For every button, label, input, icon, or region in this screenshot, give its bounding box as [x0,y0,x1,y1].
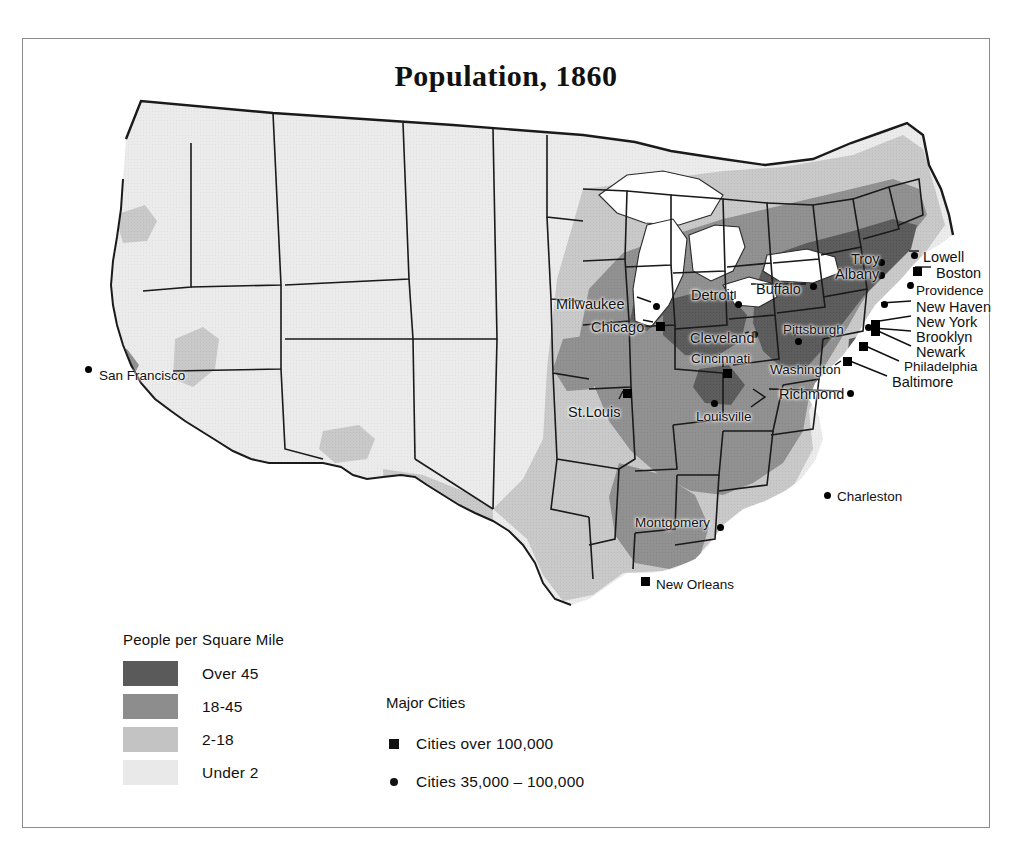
city-label-cincinnati: Cincinnati [691,352,750,366]
dot-marker-icon [386,778,416,786]
cities-legend-label: Cities over 100,000 [416,735,553,753]
city-label-albany: Albany [835,267,879,282]
cities-legend-label: Cities 35,000 – 100,000 [416,773,584,791]
density-legend-label: 18-45 [202,698,243,716]
city-marker-baltimore [843,357,852,366]
density-swatch [123,727,178,752]
density-swatch [123,760,178,785]
city-marker-providence [907,282,914,289]
city-marker-charleston [824,492,831,499]
city-label-montgomery: Montgomery [635,516,710,530]
city-label-richmond: Richmond [779,387,844,402]
city-label-lowell: Lowell [923,250,964,265]
city-label-new-york: New York [916,315,977,330]
density-legend-label: Under 2 [202,764,259,782]
city-label-pittsburgh: Pittsburgh [783,323,844,337]
city-label-chicago: Chicago [591,320,644,335]
cities-legend-row: Cities over 100,000 [386,725,584,763]
city-label-philadelphia: Philadelphia [904,360,978,374]
page-header-fragment [690,0,990,8]
city-label-buffalo: Buffalo [756,282,801,297]
city-marker-milwaukee [653,303,660,310]
city-marker-newark [865,324,872,331]
city-marker-pittsburgh [795,338,802,345]
density-swatch [123,694,178,719]
city-label-new-haven: New Haven [916,300,991,315]
city-marker-philadelphia [859,342,868,351]
city-label-washington: Washington [770,363,841,377]
city-marker-brooklyn [871,327,880,336]
density-legend: People per Square Mile Over 4518-452-18U… [123,631,284,789]
city-marker-chicago [656,322,665,331]
city-marker-richmond [847,390,854,397]
city-marker-detroit [735,301,742,308]
square-marker-icon [386,739,416,749]
city-marker-cincinnati [723,369,732,378]
map-frame: Population, 1860 [22,38,990,828]
city-marker-new-haven [881,301,888,308]
city-marker-st-louis [623,389,632,398]
density-legend-row: 18-45 [123,690,284,723]
city-label-newark: Newark [916,345,965,360]
density-legend-row: Over 45 [123,657,284,690]
cities-legend: Major Cities Cities over 100,000Cities 3… [386,694,584,801]
marker-glyph [389,739,399,749]
city-label-boston: Boston [936,266,981,281]
city-label-st-louis: St.Louis [568,405,620,420]
cities-legend-row: Cities 35,000 – 100,000 [386,763,584,801]
city-label-detroit: Detroit [691,288,734,303]
city-marker-buffalo [810,283,817,290]
city-marker-louisville [711,400,718,407]
city-label-brooklyn: Brooklyn [916,330,972,345]
city-marker-montgomery [717,524,724,531]
density-legend-row: Under 2 [123,756,284,789]
city-label-new-orleans: New Orleans [656,578,734,592]
map-page: Population, 1860 [0,0,1021,865]
density-legend-row: 2-18 [123,723,284,756]
city-label-louisville: Louisville [696,410,752,424]
city-label-san-francisco: San Francisco [99,369,185,383]
city-marker-boston [913,267,922,276]
cities-legend-title: Major Cities [386,694,584,711]
city-label-troy: Troy [851,252,879,267]
city-label-milwaukee: Milwaukee [556,297,625,312]
city-marker-san-francisco [85,366,92,373]
density-swatch [123,661,178,686]
marker-glyph [390,778,398,786]
city-label-providence: Providence [916,284,984,298]
density-legend-label: 2-18 [202,731,234,749]
city-label-cleveland: Cleveland [690,331,755,346]
density-legend-label: Over 45 [202,665,259,683]
city-label-charleston: Charleston [837,490,902,504]
city-label-baltimore: Baltimore [892,375,953,390]
density-legend-title: People per Square Mile [123,631,284,648]
city-marker-new-orleans [641,577,650,586]
city-marker-lowell [911,252,918,259]
